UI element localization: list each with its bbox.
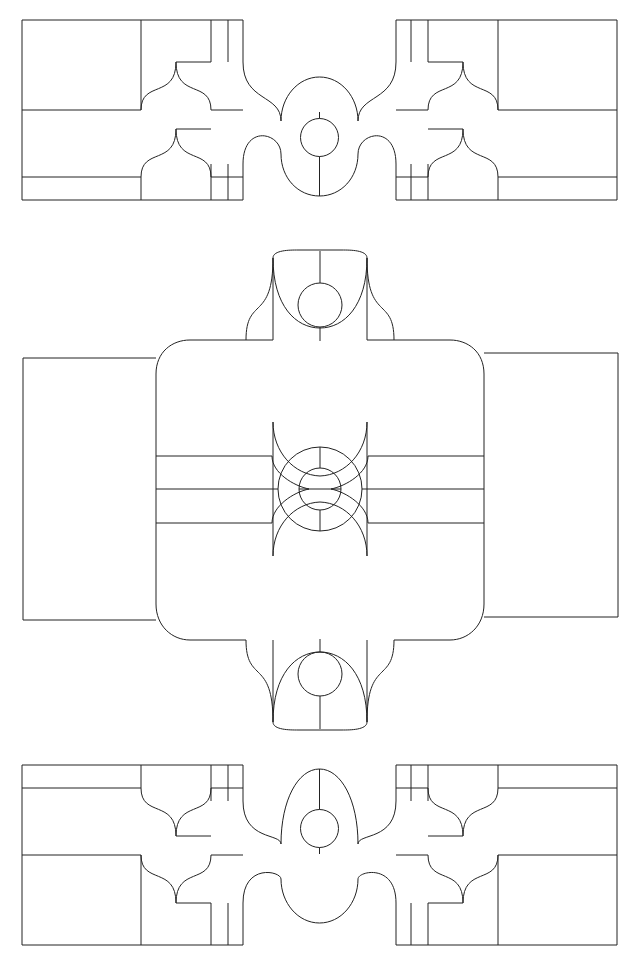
bottom-view-right-scallops [396, 788, 498, 903]
bottom-view-right-block [396, 765, 617, 945]
middle-view-bottom-lobe [246, 639, 394, 730]
top-view-left-scallops [141, 62, 243, 177]
middle-view-body-outline [156, 340, 484, 640]
technical-drawing-canvas [0, 0, 640, 962]
top-view-center-bore [301, 112, 339, 196]
bottom-view-left-block [22, 765, 243, 945]
middle-view-center-bore [278, 447, 362, 531]
bottom-view-center-bore [301, 769, 339, 854]
drawing-sheet [0, 0, 640, 962]
middle-view-bottom-lobe-bore [298, 652, 342, 696]
top-view-left-block [22, 20, 243, 200]
top-view [22, 20, 617, 200]
middle-view [23, 250, 618, 730]
bottom-view-bore-circle [301, 810, 339, 848]
middle-view-left-flange [23, 358, 156, 620]
middle-view-top-lobe-bore [298, 283, 342, 327]
middle-view-top-lobe [246, 250, 394, 341]
bottom-view [22, 765, 617, 945]
bottom-view-left-scallops [141, 788, 243, 903]
top-view-right-block [396, 20, 617, 200]
top-view-bore-circle [301, 119, 339, 157]
top-view-right-scallops [396, 62, 498, 177]
middle-view-right-flange [484, 353, 618, 617]
